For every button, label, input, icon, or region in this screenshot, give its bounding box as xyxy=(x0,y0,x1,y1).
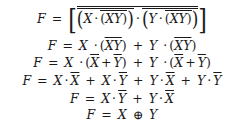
overline-group-2: (Y·(XY)) xyxy=(142,8,198,26)
equation-line-6: F = X ⊕ Y xyxy=(0,108,244,122)
equation-line-4: F = X·X + X·Y + Y·X + Y·Y xyxy=(0,74,244,88)
equation-line-1: F = [(X·(XY))·(Y·(XY))] xyxy=(0,6,244,31)
outer-overline-group: (X·(XY))·(Y·(XY)) xyxy=(77,6,199,26)
equation-line-3: F = X ·(X+Y) + Y ·(X+Y) xyxy=(0,56,244,70)
equation-line-5: F = X·Y + Y·X xyxy=(0,92,244,106)
left-bracket: [ xyxy=(68,6,77,34)
overline-group-1: (X·(XY)) xyxy=(77,8,134,26)
equation-line-2: F = X ·(XY) + Y ·(XY) xyxy=(0,39,244,53)
xor-operator: ⊕ xyxy=(133,107,143,122)
lhs-variable: F xyxy=(37,11,46,26)
equals-sign: = xyxy=(52,11,62,26)
right-bracket: ] xyxy=(198,6,207,34)
